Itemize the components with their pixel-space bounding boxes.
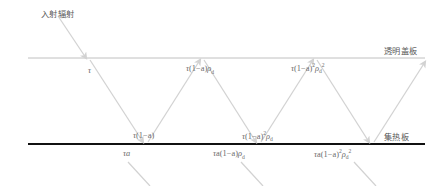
formula-bot-2-rho-sub: d: [242, 154, 245, 160]
formula-bot-1-body: a: [126, 149, 130, 158]
formula-mid-2-body: (1−a): [245, 132, 263, 141]
incident-radiation-label: 入射辐射: [41, 7, 74, 19]
formula-mid-1: τ(1−a): [133, 131, 154, 140]
ray-absorbed-3: [354, 162, 376, 186]
diagram-canvas: 入射辐射 透明盖板 集热板 τ τ(1−a)ρd τ(1−a)2ρd2 τ(1−…: [0, 0, 442, 186]
formula-bot-2-body: a(1−a): [216, 149, 238, 158]
transparent-cover-plate-label: 透明盖板: [384, 44, 417, 56]
formula-mid-2: τ(1−a)2ρd: [242, 130, 273, 142]
formula-bot-3-body: a(1−a): [317, 150, 339, 159]
formula-bot-2: τa(1−a)ρd: [213, 149, 245, 160]
formula-top-2: τ(1−a)ρd: [186, 64, 214, 75]
formula-top-3-body: (1−a): [294, 64, 312, 73]
ray-bundle: [58, 16, 425, 186]
ray-absorbed-2: [241, 162, 263, 186]
formula-bot-3-rho-sub: d: [346, 154, 349, 160]
formula-top-3-rho-sub: d: [319, 68, 322, 74]
ray-transmit-1: [90, 60, 143, 142]
formula-mid-2-rho-sub: d: [270, 136, 273, 142]
formula-top-3: τ(1−a)2ρd2: [291, 62, 325, 74]
formula-bot-1: τa: [123, 149, 130, 158]
formula-top-2-rho-sub: d: [211, 69, 214, 75]
formula-top-1: τ: [88, 66, 91, 75]
formula-top-1-tau: τ: [88, 66, 91, 75]
formula-top-3-rho-exp: 2: [322, 62, 325, 68]
formula-mid-1-body: (1−a): [136, 131, 154, 140]
absorber-plate-label: 集热板: [384, 130, 409, 142]
formula-top-2-body: (1−a): [189, 64, 207, 73]
formula-bot-3: τa(1−a)2ρd2: [314, 148, 351, 160]
formula-bot-3-rho-exp: 2: [349, 148, 352, 154]
ray-absorbed-1: [128, 162, 150, 186]
ray-incident: [58, 16, 86, 58]
ray-transmit-3: [317, 60, 369, 142]
